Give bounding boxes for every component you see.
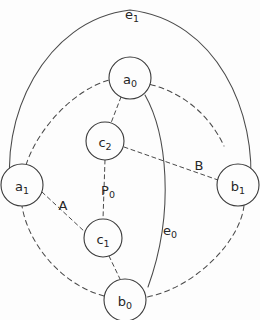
edge-a0-c2-dashed — [111, 97, 121, 123]
node-a0-subscript: 0 — [131, 78, 137, 89]
edge-c2-b1-dashed — [124, 147, 218, 180]
edge-label-e0: e0 — [163, 223, 177, 240]
edge-b1-b0-dashed — [147, 206, 244, 298]
edge-e1-solid — [10, 10, 251, 196]
edge-label-e0-base: e — [163, 223, 171, 238]
edge-c1-b0-dashed — [109, 256, 120, 279]
edge-label-A: A — [59, 198, 68, 213]
edge-label-P0-base: P — [101, 183, 109, 198]
edge-label-P0-subscript: 0 — [109, 189, 115, 200]
node-c2-subscript: 2 — [106, 141, 112, 152]
inner-dashed-edges — [42, 97, 218, 279]
node-a1-subscript: 1 — [23, 185, 29, 196]
edge-label-P0: P0 — [101, 183, 115, 200]
graph-svg: a0 a1 b1 b0 c2 — [0, 0, 260, 320]
node-c1-subscript: 1 — [104, 238, 110, 249]
edge-label-B-base: B — [195, 158, 204, 173]
node-a1-base: a — [15, 179, 23, 194]
diagram-canvas: a0 a1 b1 b0 c2 — [0, 0, 260, 320]
outer-dashed-cycle — [22, 80, 244, 297]
node-c2-base: c — [98, 135, 105, 150]
node-c2[interactable]: c2 — [86, 122, 124, 160]
edge-e0-solid — [145, 95, 165, 287]
edge-labels: e1 e0 A B P0 — [59, 7, 204, 240]
edge-label-e0-subscript: 0 — [171, 229, 177, 240]
node-b1-subscript: 1 — [239, 185, 245, 196]
node-b1-base: b — [231, 179, 239, 194]
node-c1-base: c — [96, 232, 103, 247]
node-a0[interactable]: a0 — [109, 57, 151, 99]
edge-label-A-base: A — [59, 198, 68, 213]
edge-label-e1: e1 — [125, 7, 139, 24]
edge-a0-b1-dashed — [150, 85, 224, 147]
node-b0-base: b — [118, 294, 126, 309]
node-b0-subscript: 0 — [126, 300, 132, 311]
node-b1[interactable]: b1 — [217, 164, 259, 206]
node-c1[interactable]: c1 — [84, 219, 122, 257]
edge-label-e1-base: e — [125, 7, 133, 22]
node-a0-base: a — [123, 72, 131, 87]
node-a1[interactable]: a1 — [1, 164, 43, 206]
node-b0[interactable]: b0 — [104, 279, 146, 320]
edge-label-B: B — [195, 158, 204, 173]
edge-label-e1-subscript: 1 — [133, 13, 139, 24]
